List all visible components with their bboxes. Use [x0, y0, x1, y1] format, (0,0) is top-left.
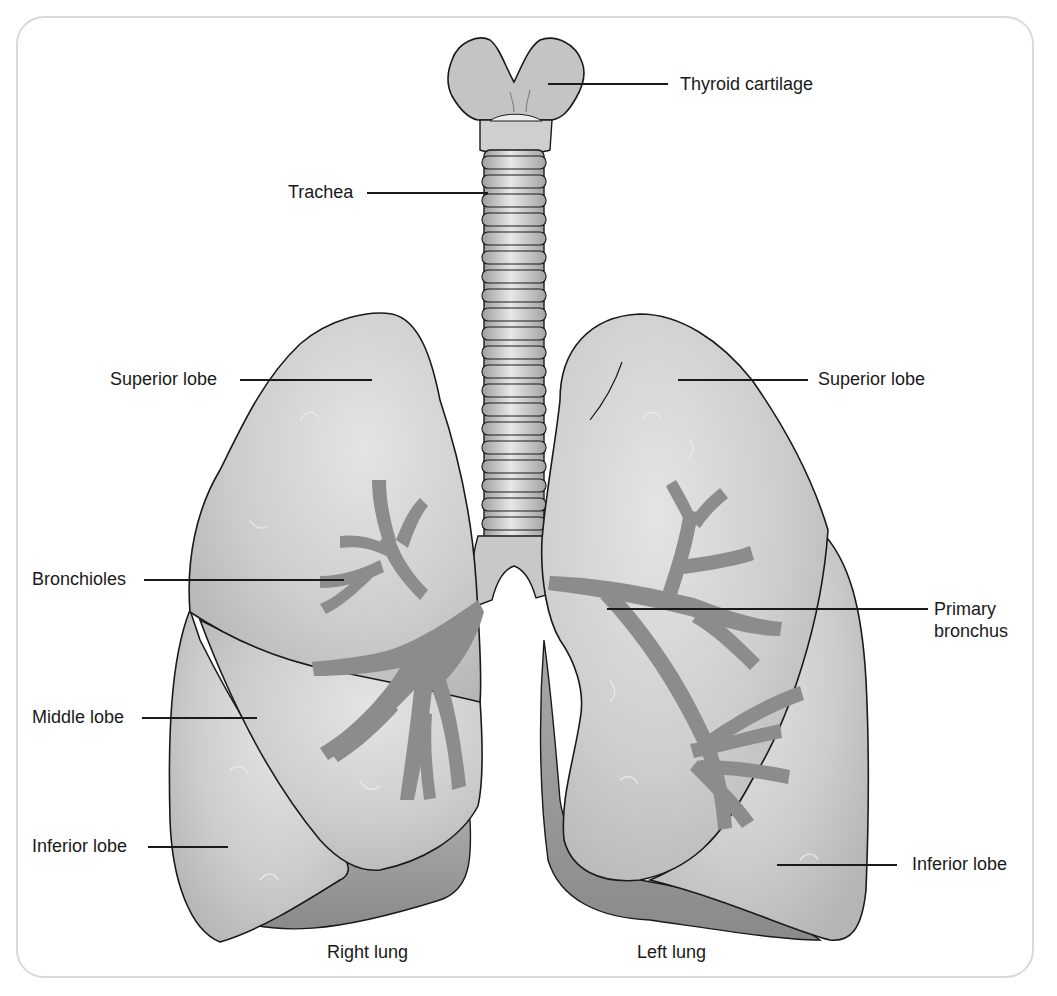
- label-middle-lobe: Middle lobe: [32, 706, 124, 728]
- leader-inferior-lobe-right: [148, 846, 228, 848]
- leader-middle-lobe: [142, 717, 257, 719]
- label-inferior-lobe-left: Inferior lobe: [912, 853, 1007, 875]
- leader-trachea: [367, 192, 488, 194]
- leader-inferior-lobe-left: [777, 864, 897, 866]
- label-primary-bronchus-line1: Primary: [934, 598, 996, 620]
- label-trachea: Trachea: [288, 181, 353, 203]
- leader-thyroid-cartilage: [548, 83, 668, 85]
- thyroid-cartilage: [448, 38, 584, 120]
- right-lung: [169, 313, 484, 942]
- left-lung: [541, 314, 869, 940]
- label-superior-lobe-right: Superior lobe: [110, 368, 217, 390]
- leader-superior-lobe-right: [240, 379, 372, 381]
- label-bronchioles: Bronchioles: [32, 568, 126, 590]
- label-inferior-lobe-right: Inferior lobe: [32, 835, 127, 857]
- leader-bronchioles: [144, 579, 344, 581]
- leader-primary-bronchus: [607, 608, 928, 610]
- leader-superior-lobe-left: [678, 379, 808, 381]
- label-right-lung: Right lung: [327, 941, 408, 963]
- label-thyroid-cartilage: Thyroid cartilage: [680, 73, 813, 95]
- label-primary-bronchus-line2: bronchus: [934, 620, 1008, 642]
- label-superior-lobe-left: Superior lobe: [818, 368, 925, 390]
- label-left-lung: Left lung: [637, 941, 706, 963]
